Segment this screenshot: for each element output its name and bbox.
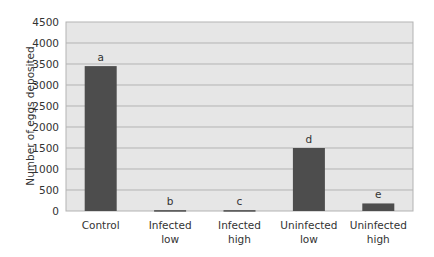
y-tick-label: 0 (52, 205, 59, 217)
bar-annotation: c (237, 195, 243, 207)
y-tick-label: 500 (39, 184, 59, 196)
x-tick-label: Control (82, 219, 120, 231)
x-tick-label: Infected (218, 219, 261, 231)
bar-annotation: a (97, 51, 103, 63)
x-tick-label: high (228, 233, 251, 245)
bar-annotation: e (375, 188, 381, 200)
x-tick-label: low (161, 233, 179, 245)
bar (224, 210, 256, 212)
bar (85, 66, 117, 211)
x-tick-label: Uninfected (280, 219, 337, 231)
y-tick-label: 2000 (32, 121, 59, 133)
y-tick-label: 1000 (32, 163, 59, 175)
bar (293, 148, 325, 211)
x-tick-label: low (300, 233, 318, 245)
y-tick-label: 4500 (32, 16, 59, 28)
plot-area (66, 22, 413, 211)
bar (154, 210, 186, 212)
bar (362, 203, 394, 211)
y-tick-label: 3000 (32, 79, 59, 91)
y-tick-label: 2500 (32, 100, 59, 112)
x-tick-label: Infected (149, 219, 192, 231)
bar-annotation: b (167, 195, 174, 207)
plot-background (66, 22, 413, 211)
bar-annotation: d (306, 133, 313, 145)
y-tick-label: 1500 (32, 142, 59, 154)
y-axis: 050010001500200025003000350040004500 (32, 16, 59, 217)
y-tick-label: 3500 (32, 58, 59, 70)
y-tick-label: 4000 (32, 37, 59, 49)
y-axis-label: Number of eggs deposited (24, 46, 36, 185)
bar-chart: 050010001500200025003000350040004500 abc… (0, 0, 434, 257)
x-tick-label: Uninfected (350, 219, 407, 231)
x-tick-label: high (367, 233, 390, 245)
x-axis: ControlInfectedlowInfectedhighUninfected… (82, 219, 407, 245)
